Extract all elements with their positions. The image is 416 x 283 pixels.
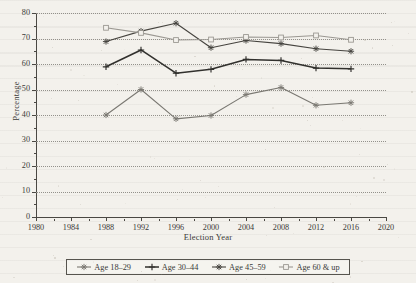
scan-speck: [246, 279, 247, 280]
scan-speck: [141, 271, 142, 272]
data-point-marker: [279, 35, 284, 40]
x-tick: [386, 217, 387, 221]
legend-marker-icon: [76, 262, 92, 272]
x-axis-label: Election Year: [0, 232, 416, 242]
x-tick-minor: [299, 219, 300, 222]
x-tick: [141, 217, 142, 221]
chart-page: Percentage Election Year 010203040506070…: [0, 0, 416, 283]
legend-label: Age 45–59: [229, 263, 266, 272]
scan-speck: [307, 120, 308, 121]
scan-speck: [293, 233, 294, 234]
data-point-marker: [139, 30, 144, 35]
scan-speck: [154, 158, 155, 159]
x-tick-minor: [334, 219, 335, 222]
series-4: [104, 25, 354, 42]
x-tick: [281, 217, 282, 221]
data-point-marker: [149, 264, 155, 270]
series-1: [103, 84, 354, 122]
scan-speck: [177, 199, 178, 200]
y-tick-label: 80: [4, 9, 30, 17]
data-point-marker: [284, 265, 289, 270]
scan-speck: [364, 39, 366, 41]
data-point-marker: [314, 33, 319, 38]
data-point-marker: [103, 38, 109, 44]
data-point-marker: [209, 37, 214, 42]
y-tick-label: 40: [4, 111, 30, 119]
data-point-marker: [173, 20, 179, 26]
scan-speck: [63, 266, 64, 267]
data-point-marker: [349, 37, 354, 42]
data-point-marker: [313, 46, 319, 52]
x-tick-minor: [124, 219, 125, 222]
scan-speck: [391, 22, 392, 23]
scan-speck: [360, 128, 361, 129]
legend-label: Age 18–29: [94, 263, 131, 272]
data-point-marker: [104, 25, 109, 30]
y-tick-label: 70: [4, 34, 30, 42]
data-point-marker: [138, 86, 144, 92]
scan-speck: [398, 237, 399, 238]
x-tick-minor: [264, 219, 265, 222]
data-point-marker: [278, 57, 284, 63]
x-tick: [71, 217, 72, 221]
x-tick-minor: [159, 219, 160, 222]
series-line: [106, 50, 351, 73]
x-tick: [211, 217, 212, 221]
y-tick-label: 10: [4, 187, 30, 195]
y-tick-label: 20: [4, 162, 30, 170]
x-tick-label: 1996: [156, 223, 196, 232]
scan-speck: [70, 69, 72, 71]
x-tick: [36, 217, 37, 221]
scan-speck: [373, 177, 375, 179]
data-point-marker: [348, 48, 354, 54]
x-tick-minor: [89, 219, 90, 222]
x-tick: [316, 217, 317, 221]
scan-speck: [383, 179, 385, 181]
scan-speck: [52, 47, 53, 48]
x-tick-label: 1992: [121, 223, 161, 232]
data-point-marker: [174, 38, 179, 43]
x-tick: [246, 217, 247, 221]
data-point-marker: [173, 116, 179, 122]
data-point-marker: [313, 102, 319, 108]
data-point-marker: [103, 112, 109, 118]
x-tick-minor: [369, 219, 370, 222]
legend-label: Age 60 & up: [296, 263, 339, 272]
legend-marker-icon: [278, 262, 294, 272]
x-tick-label: 1980: [16, 223, 56, 232]
x-tick-label: 2004: [226, 223, 266, 232]
x-tick-label: 2008: [261, 223, 301, 232]
data-point-marker: [103, 64, 109, 70]
scan-speck: [236, 96, 237, 97]
chart-legend: Age 18–29 Age 30–44 Age 45–59 Age 60 & u…: [66, 259, 350, 275]
scan-speck: [411, 91, 413, 93]
scan-speck: [182, 189, 183, 190]
scan-speck: [302, 105, 304, 107]
data-point-marker: [216, 264, 222, 270]
legend-marker-icon: [144, 262, 160, 272]
data-point-marker: [348, 100, 354, 106]
x-tick: [351, 217, 352, 221]
legend-item-age-45-59[interactable]: Age 45–59: [211, 262, 266, 272]
data-point-marker: [313, 65, 319, 71]
y-tick-label: 60: [4, 60, 30, 68]
x-tick-label: 1984: [51, 223, 91, 232]
x-tick-minor: [54, 219, 55, 222]
data-point-marker: [348, 66, 354, 72]
scan-speck: [54, 257, 56, 259]
scan-speck: [16, 89, 17, 90]
legend-item-age-18-29[interactable]: Age 18–29: [76, 262, 131, 272]
scan-speck: [392, 45, 393, 46]
scan-speck: [387, 164, 388, 165]
scan-speck: [272, 107, 274, 109]
legend-item-age-30-44[interactable]: Age 30–44: [144, 262, 199, 272]
legend-item-age-60-up[interactable]: Age 60 & up: [278, 262, 339, 272]
scan-speck: [179, 115, 181, 117]
series-layer: [36, 13, 386, 217]
scan-speck: [93, 261, 95, 263]
scan-speck: [323, 166, 325, 168]
x-tick-label: 2016: [331, 223, 371, 232]
scan-speck: [274, 207, 275, 208]
scan-speck: [150, 156, 151, 157]
data-point-marker: [208, 112, 214, 118]
